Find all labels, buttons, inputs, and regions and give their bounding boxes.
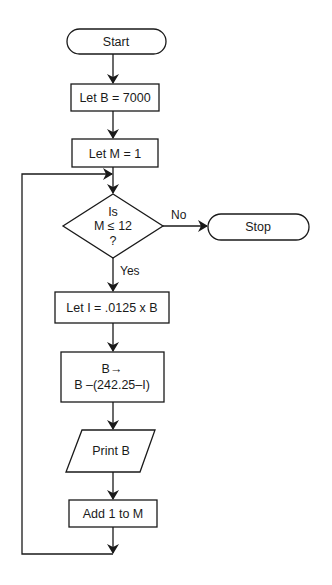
print-b-label: Print B <box>92 444 130 458</box>
update-b-line-1: B→ <box>102 362 123 376</box>
stop-label: Stop <box>245 220 271 234</box>
init-m-label: Let M = 1 <box>89 147 142 161</box>
flowchart: Start Let B = 7000 Let M = 1 Is M ≤ 12 ?… <box>0 0 332 585</box>
yes-label: Yes <box>120 264 140 278</box>
print-b-node: Print B <box>66 430 155 472</box>
decision-line-1: Is <box>108 205 118 219</box>
update-b-line-2: B –(242.25–I) <box>74 378 150 392</box>
start-node: Start <box>67 29 166 54</box>
decision-node: Is M ≤ 12 ? <box>63 194 163 258</box>
init-m-node: Let M = 1 <box>72 139 158 167</box>
inc-m-label: Add 1 to M <box>83 507 143 521</box>
update-b-node: B→ B –(242.25–I) <box>61 352 164 402</box>
init-b-node: Let B = 7000 <box>71 84 159 111</box>
stop-node: Stop <box>208 214 309 240</box>
start-label: Start <box>103 35 130 49</box>
calc-i-label: Let I = .0125 x B <box>66 301 157 315</box>
no-label: No <box>171 208 187 222</box>
init-b-label: Let B = 7000 <box>79 91 150 105</box>
inc-m-node: Add 1 to M <box>69 500 157 527</box>
decision-line-2: M ≤ 12 <box>94 219 132 233</box>
calc-i-node: Let I = .0125 x B <box>55 292 169 323</box>
decision-line-3: ? <box>110 234 117 248</box>
